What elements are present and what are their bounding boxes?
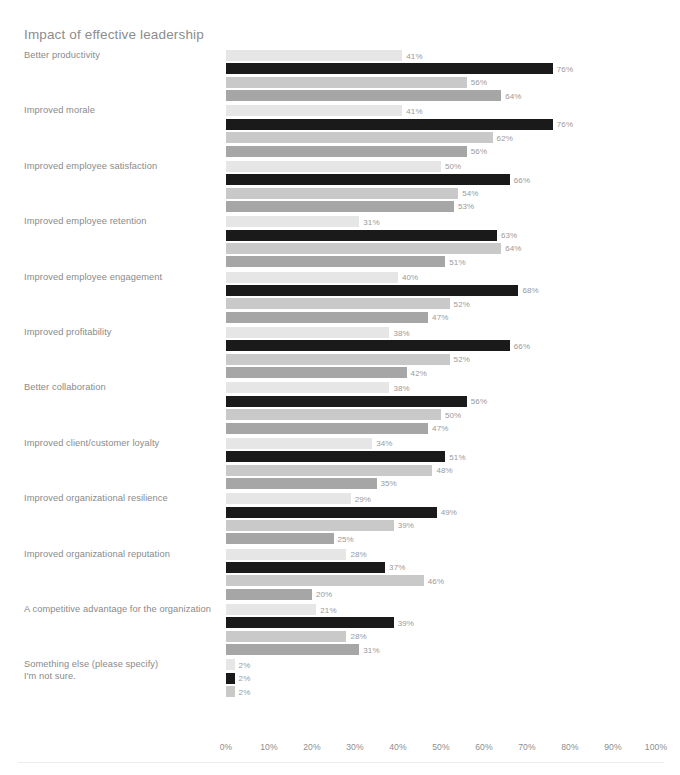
x-axis-tick: 70%	[518, 742, 536, 752]
bar-value-label: 46%	[428, 576, 444, 587]
bar-row: 54%	[226, 188, 656, 199]
category-label: Improved employee retention	[24, 216, 216, 228]
bar	[226, 423, 428, 434]
bar-row: 47%	[226, 312, 656, 323]
bar	[226, 256, 445, 267]
bar-value-label: 25%	[338, 534, 354, 545]
bar	[226, 686, 235, 697]
bar-value-label: 2%	[239, 660, 251, 671]
bar-row: 38%	[226, 327, 656, 338]
category-label: Better productivity	[24, 50, 216, 62]
bar	[226, 562, 385, 573]
bar-row: 31%	[226, 216, 656, 227]
x-axis: 0%10%20%30%40%50%60%70%80%90%100%	[226, 742, 656, 762]
x-axis-tick: 80%	[561, 742, 579, 752]
bar	[226, 272, 398, 283]
bar-value-label: 64%	[505, 243, 521, 254]
bar-value-label: 39%	[398, 520, 414, 531]
bar-value-label: 68%	[522, 285, 538, 296]
bar	[226, 216, 359, 227]
bar-row: 21%	[226, 604, 656, 615]
bar-row: 66%	[226, 174, 656, 185]
category-label: A competitive advantage for the organiza…	[24, 604, 216, 616]
bar	[226, 507, 437, 518]
bar-value-label: 37%	[389, 562, 405, 573]
bar-row: 64%	[226, 90, 656, 101]
bar-row: 48%	[226, 465, 656, 476]
bar-row: 41%	[226, 105, 656, 116]
bar-group: Improved organizational reputation28%37%…	[0, 549, 680, 603]
bar-row: 31%	[226, 644, 656, 655]
bar-value-label: 38%	[393, 383, 409, 394]
bar	[226, 604, 316, 615]
bar-row: 52%	[226, 354, 656, 365]
bar	[226, 312, 428, 323]
x-axis-tick: 30%	[346, 742, 364, 752]
bar-row: 66%	[226, 340, 656, 351]
bar-value-label: 53%	[458, 201, 474, 212]
bar-value-label: 42%	[411, 368, 427, 379]
bar	[226, 396, 467, 407]
bar-value-label: 41%	[406, 106, 422, 117]
bar-row: 49%	[226, 507, 656, 518]
bar	[226, 367, 407, 378]
bar-value-label: 56%	[471, 146, 487, 157]
bar-row: 51%	[226, 451, 656, 462]
bar-set: 34%51%48%35%	[226, 438, 656, 492]
bar-set: 28%37%46%20%	[226, 549, 656, 603]
bar-set: 41%76%56%64%	[226, 50, 656, 104]
bar-row: 39%	[226, 617, 656, 628]
bar	[226, 549, 346, 560]
bar	[226, 63, 553, 74]
category-label: Better collaboration	[24, 382, 216, 394]
bar-value-label: 41%	[406, 51, 422, 62]
bar-set: 31%63%64%51%	[226, 216, 656, 270]
bar	[226, 438, 372, 449]
bar-value-label: 76%	[557, 64, 573, 75]
chart-container: Impact of effective leadership Better pr…	[0, 0, 680, 775]
bar-row: 35%	[226, 478, 656, 489]
bar-value-label: 28%	[350, 631, 366, 642]
bar-row: 29%	[226, 493, 656, 504]
bar-row: 40%	[226, 272, 656, 283]
bar-value-label: 52%	[454, 354, 470, 365]
bar-row: 76%	[226, 119, 656, 130]
bar	[226, 340, 510, 351]
bar	[226, 451, 445, 462]
chart-title: Impact of effective leadership	[24, 27, 204, 42]
bar-group: Better collaboration38%56%50%47%	[0, 382, 680, 436]
bar-group: Improved client/customer loyalty34%51%48…	[0, 438, 680, 492]
bar	[226, 298, 450, 309]
bar-row: 56%	[226, 146, 656, 157]
bar-value-label: 51%	[449, 452, 465, 463]
bar	[226, 327, 389, 338]
bar-row: 56%	[226, 77, 656, 88]
bar-group: Something else (please specify)I'm not s…	[0, 659, 680, 699]
bar-value-label: 39%	[398, 618, 414, 629]
bar-row: 56%	[226, 396, 656, 407]
bar-value-label: 31%	[363, 217, 379, 228]
bar-group: A competitive advantage for the organiza…	[0, 604, 680, 658]
bar-group: Improved profitability38%66%52%42%	[0, 327, 680, 381]
bar-group: Improved organizational resilience29%49%…	[0, 493, 680, 547]
bar-row: 51%	[226, 256, 656, 267]
bar-group: Improved employee satisfaction50%66%54%5…	[0, 161, 680, 215]
bar-value-label: 64%	[505, 91, 521, 102]
bar-set: 2%2%2%	[226, 659, 656, 699]
category-label-secondary: I'm not sure.	[24, 671, 216, 683]
category-label: Improved morale	[24, 105, 216, 117]
x-axis-tick: 50%	[432, 742, 450, 752]
bar-value-label: 48%	[436, 465, 452, 476]
bar-row: 47%	[226, 423, 656, 434]
bar-row: 28%	[226, 631, 656, 642]
x-axis-tick: 90%	[604, 742, 622, 752]
bar	[226, 188, 458, 199]
category-label: Improved client/customer loyalty	[24, 438, 216, 450]
bar-row: 50%	[226, 161, 656, 172]
bar-value-label: 56%	[471, 396, 487, 407]
bar-value-label: 34%	[376, 438, 392, 449]
bar-group: Improved employee engagement40%68%52%47%	[0, 272, 680, 326]
bar-value-label: 29%	[355, 494, 371, 505]
bar-group: Improved morale41%76%62%56%	[0, 105, 680, 159]
bar	[226, 161, 441, 172]
